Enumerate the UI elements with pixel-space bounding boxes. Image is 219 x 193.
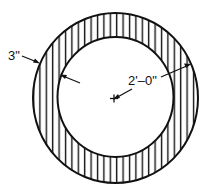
wall-thickness-label: 3": [8, 48, 20, 63]
radius-label: 2'–0": [128, 73, 157, 88]
pipe-section-diagram: 3" 2'–0": [0, 0, 219, 193]
